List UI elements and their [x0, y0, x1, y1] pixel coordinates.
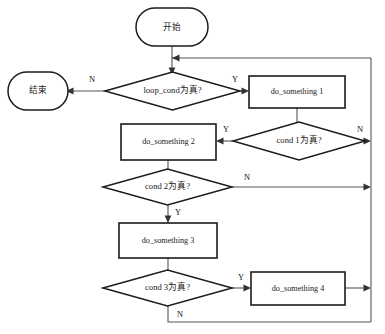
do-something-3-label: do_something 3 [142, 236, 195, 245]
node-do-something-1[interactable]: do_something 1 [249, 76, 345, 108]
loop-cond-label: loop_cond为真? [143, 84, 201, 95]
end-label: 结束 [29, 84, 47, 95]
arrowhead-collector-return [172, 55, 180, 62]
node-end[interactable]: 结束 [8, 72, 68, 110]
node-cond-3[interactable]: cond 3为真? [103, 270, 232, 306]
node-loop-cond[interactable]: loop_cond为真? [105, 72, 240, 110]
start-label: 开始 [163, 21, 181, 32]
edge-label-loopcond-yes: Y [232, 75, 238, 84]
flowchart-svg: 开始 结束 loop_cond为真? do_something 1 cond 1… [0, 0, 385, 334]
edge-label-loopcond-no: N [89, 75, 95, 84]
arrowhead-cond2-yes [165, 216, 172, 224]
edge-label-cond1-yes: Y [223, 125, 229, 134]
arrowhead-cond3-yes [244, 285, 252, 292]
node-layer: 开始 结束 loop_cond为真? do_something 1 cond 1… [8, 8, 365, 306]
arrowhead-do4-to-collector [364, 285, 372, 292]
flowchart-canvas: 开始 结束 loop_cond为真? do_something 1 cond 1… [0, 0, 385, 334]
edge-label-cond3-yes: Y [238, 273, 244, 282]
node-do-something-3[interactable]: do_something 3 [119, 223, 217, 258]
edge-label-cond1-no: N [357, 125, 363, 134]
node-do-something-2[interactable]: do_something 2 [121, 124, 216, 160]
do-something-2-label: do_something 2 [142, 137, 195, 146]
edge-label-cond2-no: N [244, 173, 250, 182]
arrowhead-cond1-yes [216, 138, 224, 145]
edge-label-cond2-yes: Y [175, 208, 181, 217]
edge-label-cond3-no: N [177, 310, 183, 319]
node-do-something-4[interactable]: do_something 4 [251, 272, 345, 305]
node-cond-2[interactable]: cond 2为真? [103, 169, 232, 205]
cond-3-label: cond 3为真? [145, 281, 190, 292]
do-something-4-label: do_something 4 [272, 284, 325, 293]
cond-2-label: cond 2为真? [145, 180, 190, 191]
do-something-1-label: do_something 1 [271, 87, 324, 96]
node-start[interactable]: 开始 [136, 8, 208, 46]
arrowhead-cond2-no [364, 184, 372, 191]
edge-cond3-no-to-collector [168, 306, 371, 322]
node-cond-1[interactable]: cond 1为真? [233, 122, 365, 160]
cond-1-label: cond 1为真? [277, 134, 322, 145]
